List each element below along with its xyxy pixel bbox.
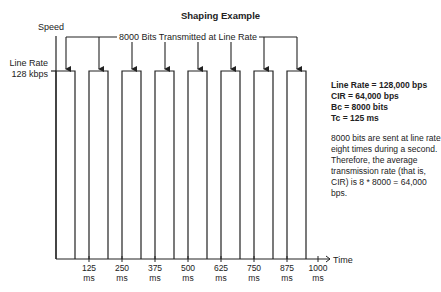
tick-value: 625: [206, 263, 236, 273]
time-tick-label: 500ms: [173, 263, 203, 283]
pulse: [56, 71, 75, 259]
time-tick-label: 250ms: [107, 263, 137, 283]
time-tick-label: 1000ms: [303, 263, 333, 283]
tick-unit: ms: [140, 273, 170, 283]
pulse: [254, 71, 273, 259]
time-tick-label: 875ms: [272, 263, 302, 283]
time-tick-label: 375ms: [140, 263, 170, 283]
x-axis-label: Time: [333, 255, 353, 265]
tick-unit: ms: [74, 273, 104, 283]
tick-value: 875: [272, 263, 302, 273]
pulse: [188, 71, 207, 259]
pulse: [221, 71, 240, 259]
param-bc: Bc = 8000 bits: [331, 102, 441, 113]
time-tick-label: 125ms: [74, 263, 104, 283]
tick-unit: ms: [173, 273, 203, 283]
param-cir: CIR = 64,000 bps: [331, 91, 441, 102]
info-panel: Line Rate = 128,000 bps CIR = 64,000 bps…: [331, 80, 441, 199]
tick-unit: ms: [107, 273, 137, 283]
tick-value: 250: [107, 263, 137, 273]
pulse-group: [56, 71, 306, 259]
param-tc: Tc = 125 ms: [331, 113, 441, 124]
tick-value: 1000: [303, 263, 333, 273]
param-line-rate: Line Rate = 128,000 bps: [331, 80, 441, 91]
pulse: [89, 71, 108, 259]
tick-unit: ms: [303, 273, 333, 283]
pulse: [122, 71, 141, 259]
banner-label: 8000 Bits Transmitted at Line Rate: [117, 32, 259, 42]
parameter-list: Line Rate = 128,000 bps CIR = 64,000 bps…: [331, 80, 441, 124]
tick-value: 375: [140, 263, 170, 273]
tick-unit: ms: [272, 273, 302, 283]
tick-unit: ms: [206, 273, 236, 283]
time-tick-label: 625ms: [206, 263, 236, 283]
tick-value: 125: [74, 263, 104, 273]
time-tick-label: 750ms: [239, 263, 269, 283]
description-text: 8000 bits are sent at line rate eight ti…: [331, 133, 441, 199]
pulse: [155, 71, 174, 259]
tick-value: 500: [173, 263, 203, 273]
pulse: [287, 71, 306, 259]
tick-value: 750: [239, 263, 269, 273]
tick-unit: ms: [239, 273, 269, 283]
